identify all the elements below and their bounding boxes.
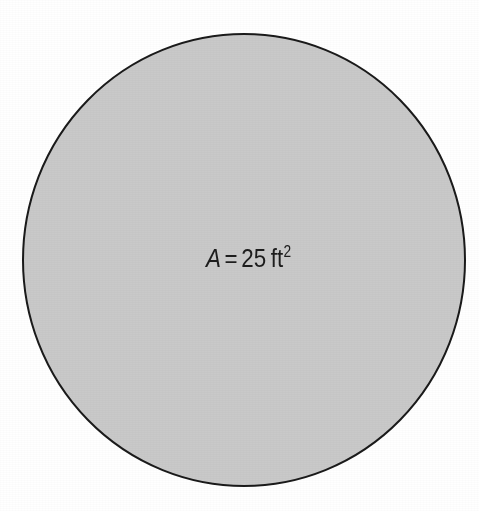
area-label-variable: A <box>206 243 223 273</box>
area-label-exponent: 2 <box>283 243 291 260</box>
area-label-unit: ft <box>271 243 283 273</box>
figure-canvas: A=25ft2 <box>0 0 479 511</box>
area-label-equals: = <box>223 243 241 273</box>
area-label: A=25ft2 <box>206 244 291 272</box>
area-label-value: 25 <box>241 243 271 273</box>
